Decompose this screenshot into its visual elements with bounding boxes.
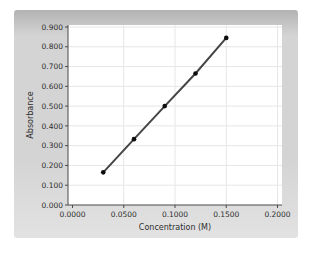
calibration-curve-chart: 0.0000.1000.2000.3000.4000.5000.6000.700… <box>14 10 298 238</box>
data-point <box>101 170 106 175</box>
y-axis-title: Absorbance <box>26 91 35 138</box>
y-tick-label: 0.500 <box>42 102 64 111</box>
y-tick-label: 0.200 <box>42 161 64 170</box>
data-point <box>193 71 198 76</box>
y-tick-label: 0.400 <box>42 122 64 131</box>
y-tick-label: 0.800 <box>42 42 64 51</box>
chart-panel: 0.0000.1000.2000.3000.4000.5000.6000.700… <box>14 10 298 238</box>
x-tick-label: 0.1000 <box>162 210 188 219</box>
x-tick-label: 0.1500 <box>213 210 239 219</box>
figure-canvas: 0.0000.1000.2000.3000.4000.5000.6000.700… <box>0 0 316 255</box>
x-axis-title: Concentration (M) <box>139 223 211 232</box>
y-tick-label: 0.000 <box>42 201 64 210</box>
data-point <box>162 104 167 109</box>
y-tick-label: 0.600 <box>42 82 64 91</box>
data-point <box>132 137 137 142</box>
y-tick-label: 0.900 <box>42 23 64 32</box>
x-tick-label: 0.2000 <box>264 210 290 219</box>
x-tick-label: 0.0000 <box>59 210 85 219</box>
data-point <box>224 36 229 41</box>
y-tick-label: 0.300 <box>42 141 64 150</box>
y-tick-label: 0.700 <box>42 62 64 71</box>
y-tick-label: 0.100 <box>42 181 64 190</box>
x-tick-label: 0.0500 <box>111 210 137 219</box>
